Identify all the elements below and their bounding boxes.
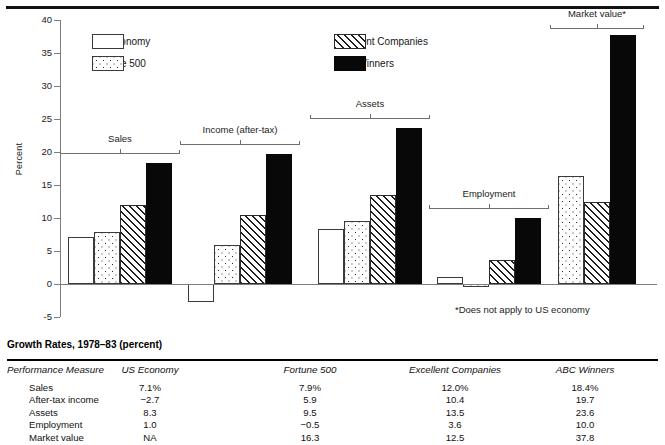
bar <box>344 221 370 284</box>
legend-swatch-white <box>92 34 124 49</box>
table-cell-value: 18.4% <box>542 382 628 393</box>
bar-chart: Percent 4035302520151050-5 SalesIncome (… <box>0 14 665 330</box>
y-tick-label: 5 <box>22 246 52 256</box>
y-tick-label: 0 <box>22 279 52 289</box>
y-tick-label: -5 <box>22 312 52 322</box>
table-cell-value: 13.5 <box>412 407 498 418</box>
y-tick-label: 10 <box>22 213 52 223</box>
table-cell-measure: After-tax income <box>29 394 99 405</box>
bar <box>240 215 266 284</box>
group-label: Market value* <box>548 9 646 19</box>
table-cell-value: 3.6 <box>412 419 498 430</box>
y-tick <box>54 119 60 120</box>
bar <box>437 277 463 284</box>
group-label: Sales <box>52 134 188 144</box>
table-cell-value: 7.1% <box>107 382 193 393</box>
legend-swatch-black <box>334 56 366 71</box>
chart-footnote: *Does not apply to US economy <box>455 304 590 315</box>
table-row: Market valueNA16.312.537.8 <box>0 432 665 444</box>
group-label: Assets <box>304 99 436 109</box>
table-top-rule <box>7 359 658 361</box>
table-cell-value: 19.7 <box>542 394 628 405</box>
bar <box>188 284 214 302</box>
table-header-cell: ABC Winners <box>525 364 645 375</box>
growth-rates-table: Growth Rates, 1978–83 (percent) Performa… <box>0 336 665 445</box>
table-cell-measure: Market value <box>29 432 84 443</box>
chart-legend: US EconomyFortune 500Excellent Companies… <box>92 36 492 78</box>
group-bracket <box>429 202 549 209</box>
bar <box>146 163 172 284</box>
table-cell-value: NA <box>107 432 193 443</box>
bar <box>558 176 584 284</box>
legend-swatch-dots <box>92 56 124 71</box>
figure-root: Percent 4035302520151050-5 SalesIncome (… <box>0 0 665 445</box>
y-tick <box>54 20 60 21</box>
bar <box>266 154 292 284</box>
group-label: Employment <box>423 189 555 199</box>
group-bracket <box>550 22 644 29</box>
table-cell-measure: Employment <box>29 419 82 430</box>
table-title: Growth Rates, 1978–83 (percent) <box>7 339 162 350</box>
bar <box>94 232 120 284</box>
y-tick <box>54 86 60 87</box>
bar <box>489 260 515 284</box>
table-cell-value: 5.9 <box>267 394 353 405</box>
table-cell-measure: Sales <box>29 382 53 393</box>
bar <box>68 237 94 284</box>
y-tick-label: 15 <box>22 180 52 190</box>
y-tick-label: 20 <box>22 147 52 157</box>
y-tick-label: 25 <box>22 114 52 124</box>
table-cell-value: 10.0 <box>542 419 628 430</box>
group-label: Income (after-tax) <box>162 125 318 135</box>
y-tick-label: 30 <box>22 81 52 91</box>
legend-item: US Economy <box>92 36 150 47</box>
y-tick <box>54 317 60 318</box>
table-cell-value: 8.3 <box>107 407 193 418</box>
bar <box>515 218 541 284</box>
bar <box>214 245 240 284</box>
bar <box>584 202 610 285</box>
table-cell-value: 1.0 <box>107 419 193 430</box>
table-cell-value: 7.9% <box>267 382 353 393</box>
table-cell-value: −0.5 <box>267 419 353 430</box>
y-tick <box>54 251 60 252</box>
y-tick <box>54 218 60 219</box>
bar <box>318 229 344 284</box>
table-cell-value: 12.5 <box>412 432 498 443</box>
table-cell-value: 16.3 <box>267 432 353 443</box>
legend-item: Fortune 500 <box>92 58 146 69</box>
table-cell-value: 23.6 <box>542 407 628 418</box>
table-cell-value: −2.7 <box>107 394 193 405</box>
table-header-cell: Excellent Companies <box>395 364 515 375</box>
table-header-row: Performance MeasureUS EconomyFortune 500… <box>0 364 665 379</box>
table-cell-value: 12.0% <box>412 382 498 393</box>
zero-baseline <box>60 284 657 285</box>
legend-item: ABC Winners <box>334 58 394 69</box>
table-cell-value: 37.8 <box>542 432 628 443</box>
table-row: Employment1.0−0.53.610.0 <box>0 419 665 431</box>
group-bracket <box>60 147 180 154</box>
table-row: Assets8.39.513.523.6 <box>0 407 665 419</box>
y-tick <box>54 53 60 54</box>
bar <box>610 35 636 284</box>
table-cell-value: 10.4 <box>412 394 498 405</box>
bar <box>370 195 396 284</box>
y-axis-line <box>60 20 61 317</box>
legend-swatch-hatch <box>334 34 366 49</box>
legend-item: Excellent Companies <box>334 36 428 47</box>
y-tick-label: 35 <box>22 48 52 58</box>
table-header-cell: US Economy <box>90 364 210 375</box>
y-tick-label: 40 <box>22 15 52 25</box>
bar <box>120 205 146 284</box>
group-bracket <box>310 112 430 119</box>
table-cell-value: 9.5 <box>267 407 353 418</box>
y-tick <box>54 185 60 186</box>
table-row: Sales7.1%7.9%12.0%18.4% <box>0 382 665 394</box>
bar <box>396 128 422 284</box>
group-bracket <box>180 138 300 145</box>
table-row: After-tax income−2.75.910.419.7 <box>0 394 665 406</box>
table-header-cell: Fortune 500 <box>250 364 370 375</box>
table-cell-measure: Assets <box>29 407 58 418</box>
